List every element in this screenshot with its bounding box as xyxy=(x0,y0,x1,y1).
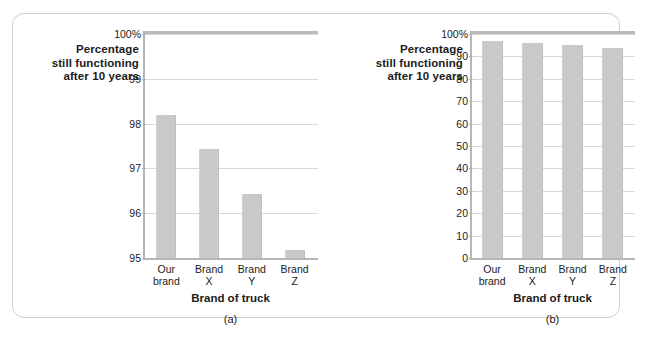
y-tick-label: 30 xyxy=(456,185,468,197)
y-axis-ticks-b: 0102030405060708090100% xyxy=(430,31,468,260)
x-category-label-line: Y xyxy=(231,275,274,287)
x-axis-categories-b: OurbrandBrandXBrandYBrandZ xyxy=(472,263,633,291)
bar xyxy=(199,149,219,258)
x-category-label-line: Z xyxy=(273,275,316,287)
x-category-label-line: brand xyxy=(145,275,188,287)
x-category-label: BrandZ xyxy=(273,263,316,287)
x-category-label: BrandZ xyxy=(593,263,633,287)
y-tick-label: 90 xyxy=(456,50,468,62)
y-axis-ticks-a: 9596979899100% xyxy=(101,31,141,260)
x-category-label-line: X xyxy=(188,275,231,287)
x-category-label-line: Our xyxy=(472,263,512,275)
bar-series-a xyxy=(145,34,316,258)
y-tick-label: 60 xyxy=(456,118,468,130)
x-category-label-line: Y xyxy=(553,275,593,287)
x-category-label-line: Brand xyxy=(231,263,274,275)
bar xyxy=(522,43,543,258)
x-category-label-line: Brand xyxy=(512,263,552,275)
x-category-label: Ourbrand xyxy=(472,263,512,287)
x-axis-title-a: Brand of truck xyxy=(143,292,318,304)
panel-caption-a: (a) xyxy=(143,313,318,325)
y-tick-label: 10 xyxy=(456,230,468,242)
y-tick-label: 95 xyxy=(129,252,141,264)
y-tick-label: 20 xyxy=(456,207,468,219)
y-tick-mark xyxy=(142,258,146,259)
y-tick-label: 100% xyxy=(441,28,468,40)
x-category-label: BrandY xyxy=(231,263,274,287)
chart-panel-a: Percentage still functioning after 10 ye… xyxy=(1,1,326,340)
y-tick-label: 40 xyxy=(456,162,468,174)
x-category-label-line: Brand xyxy=(188,263,231,275)
figure-frame: Percentage still functioning after 10 ye… xyxy=(12,13,620,318)
bar xyxy=(242,194,262,258)
y-tick-label: 99 xyxy=(129,73,141,85)
x-category-label: BrandY xyxy=(553,263,593,287)
x-category-label-line: X xyxy=(512,275,552,287)
x-category-label: Ourbrand xyxy=(145,263,188,287)
y-tick-label: 50 xyxy=(456,140,468,152)
chart-panel-b: Percentage still functioning after 10 ye… xyxy=(326,1,650,340)
x-category-label: BrandX xyxy=(512,263,552,287)
x-category-label-line: brand xyxy=(472,275,512,287)
y-tick-label: 96 xyxy=(129,207,141,219)
x-category-label-line: Brand xyxy=(273,263,316,275)
x-category-label-line: Brand xyxy=(593,263,633,275)
bar xyxy=(156,115,176,258)
bar xyxy=(562,45,583,258)
bar xyxy=(482,41,503,258)
x-category-label: BrandX xyxy=(188,263,231,287)
bar xyxy=(285,250,305,258)
y-tick-label: 97 xyxy=(129,162,141,174)
y-tick-label: 98 xyxy=(129,118,141,130)
y-tick-label: 80 xyxy=(456,73,468,85)
x-category-label-line: Brand xyxy=(553,263,593,275)
y-tick-mark xyxy=(469,258,473,259)
x-category-label-line: Our xyxy=(145,263,188,275)
x-axis-title-b: Brand of truck xyxy=(470,292,635,304)
x-category-label-line: Z xyxy=(593,275,633,287)
x-axis-categories-a: OurbrandBrandXBrandYBrandZ xyxy=(145,263,316,291)
y-tick-label: 100% xyxy=(114,28,141,40)
bar xyxy=(602,48,623,258)
y-tick-label: 0 xyxy=(462,252,468,264)
panel-caption-b: (b) xyxy=(470,313,635,325)
bar-series-b xyxy=(472,34,633,258)
y-tick-label: 70 xyxy=(456,95,468,107)
